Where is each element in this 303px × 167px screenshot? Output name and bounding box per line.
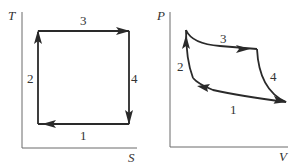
ts-diagram: T S 3 2 4 1 [8, 8, 138, 165]
pv-label-3: 3 [220, 31, 227, 46]
arrow-right-icon [236, 45, 250, 53]
ts-label-1: 1 [80, 128, 87, 143]
thermo-cycle-diagrams: T S 3 2 4 1 P V 3 2 [0, 0, 303, 167]
ts-label-2: 2 [27, 71, 34, 86]
ts-label-4: 4 [131, 71, 138, 86]
v-axis-label: V [279, 149, 289, 164]
p-axis-label: P [156, 8, 165, 23]
pv-diagram: P V 3 2 4 1 [156, 8, 289, 164]
t-axis-label: T [8, 8, 16, 23]
s-axis-label: S [128, 150, 135, 165]
ts-label-3: 3 [80, 13, 87, 28]
pv-label-2: 2 [177, 59, 184, 74]
pv-label-1: 1 [230, 102, 237, 117]
pv-label-4: 4 [270, 69, 277, 84]
